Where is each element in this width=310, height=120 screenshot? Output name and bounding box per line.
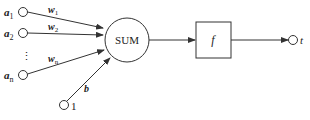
input-node-an [19,71,28,80]
input-an-label: an [4,69,14,84]
output-node [289,36,298,45]
input-a1-label: a1 [4,6,14,21]
edge-bias-sum [67,58,110,101]
input-a2-label: a2 [4,27,14,42]
edge-a2-sum [28,33,104,35]
bias-input-value: 1 [71,100,77,112]
bias-node [60,101,69,110]
edge-an-sum [28,50,105,74]
edge-a1-sum [28,12,104,28]
bias-label: b [84,83,89,94]
weight-wn-label: wn [48,53,59,66]
sum-label: SUM [115,34,139,46]
neuron-diagram: a1 w1 a2 w2 ⋮ an wn 1 b SUM f t [0,0,310,120]
input-node-a1 [19,8,28,17]
ellipsis: ⋮ [21,50,32,62]
weight-w1-label: w1 [48,4,59,17]
output-label: t [300,34,304,46]
weight-w2-label: w2 [48,21,59,34]
bias-input: 1 b [60,58,111,112]
input-a2: a2 w2 [4,21,103,42]
input-node-a2 [19,29,28,38]
